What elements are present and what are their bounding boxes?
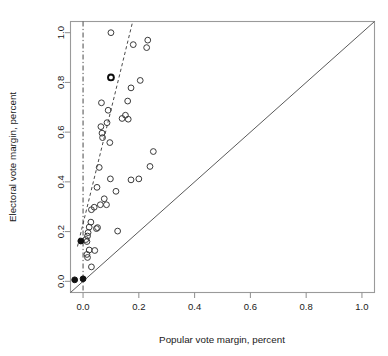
data-point — [92, 248, 98, 254]
data-point — [123, 112, 129, 118]
x-axis-tick-labels: 0.00.20.40.60.81.0 — [76, 301, 368, 312]
y-tick-label: 0.0 — [55, 275, 66, 288]
data-point — [145, 37, 151, 43]
data-point — [89, 264, 95, 270]
y-axis-tick-labels: 0.00.20.40.60.81.0 — [55, 26, 66, 288]
data-point — [80, 276, 86, 282]
data-point — [113, 188, 119, 194]
data-point — [98, 124, 104, 130]
scatter-plot-figure: 0.00.20.40.60.81.0 0.00.20.40.60.81.0 Po… — [0, 0, 388, 356]
y-axis-ticks — [65, 33, 71, 282]
data-point — [125, 98, 131, 104]
x-tick-label: 1.0 — [355, 301, 368, 312]
x-tick-label: 0.6 — [244, 301, 257, 312]
data-point — [128, 85, 134, 91]
x-axis-title: Popular vote margin, percent — [159, 334, 285, 345]
x-tick-label: 0.8 — [300, 301, 313, 312]
data-point-markers — [72, 30, 156, 283]
data-point — [150, 149, 156, 155]
data-point — [128, 177, 134, 183]
data-point — [137, 78, 143, 84]
data-point — [115, 228, 121, 234]
data-point — [101, 196, 107, 202]
y-tick-label: 0.4 — [55, 175, 66, 188]
data-point — [94, 184, 100, 190]
identity-line — [71, 22, 375, 293]
data-point — [107, 140, 113, 146]
reference-lines — [71, 22, 375, 293]
data-point — [105, 107, 111, 113]
x-tick-label: 0.2 — [132, 301, 145, 312]
data-point — [85, 233, 91, 239]
series-elections-filled — [72, 238, 86, 283]
y-axis-title: Electoral vote margin, percent — [7, 92, 18, 222]
data-point — [107, 176, 113, 182]
data-point — [104, 120, 110, 126]
series-elections-open — [83, 30, 156, 270]
data-point — [130, 42, 136, 48]
data-point — [147, 164, 153, 170]
data-point — [72, 277, 78, 283]
y-tick-label: 0.6 — [55, 126, 66, 139]
data-point — [108, 30, 114, 36]
chart-canvas: 0.00.20.40.60.81.0 0.00.20.40.60.81.0 Po… — [0, 0, 388, 356]
data-point — [108, 75, 114, 81]
x-axis-ticks — [83, 293, 362, 299]
data-point — [104, 202, 110, 208]
data-point — [84, 239, 90, 245]
y-tick-label: 0.8 — [55, 76, 66, 89]
data-point — [144, 45, 150, 51]
data-point — [97, 202, 103, 208]
data-point — [125, 116, 131, 122]
x-tick-label: 0.4 — [188, 301, 201, 312]
data-point — [136, 176, 142, 182]
data-point — [99, 100, 105, 106]
y-tick-label: 1.0 — [55, 26, 66, 39]
y-tick-label: 0.2 — [55, 225, 66, 238]
series-elections-bold-outline — [108, 75, 114, 81]
data-point — [119, 116, 125, 122]
data-point — [78, 238, 84, 244]
x-tick-label: 0.0 — [76, 301, 89, 312]
